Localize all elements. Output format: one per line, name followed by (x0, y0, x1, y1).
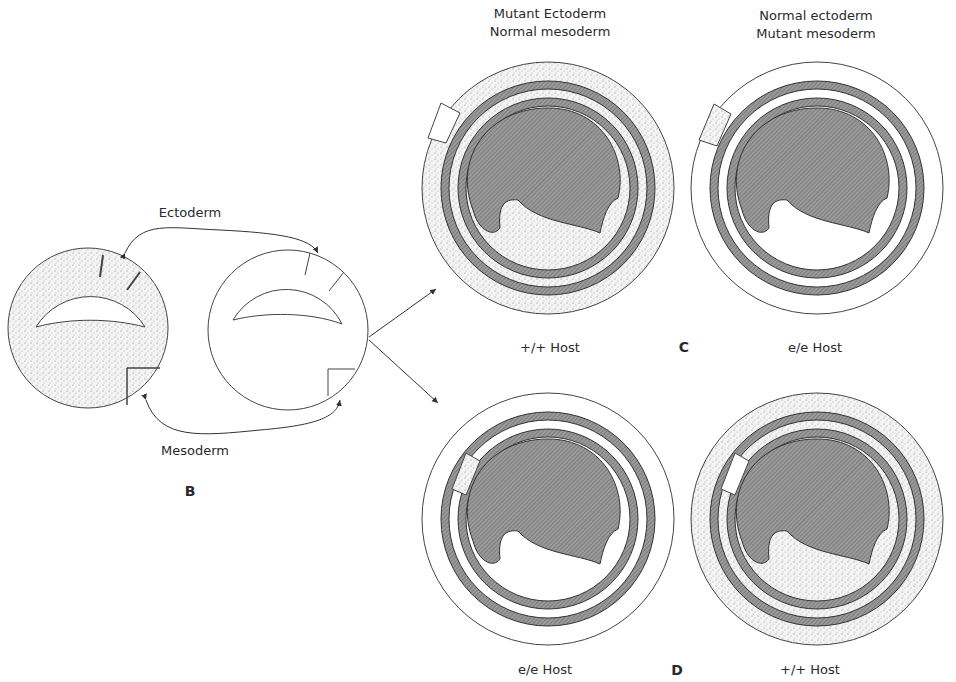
mesoderm-label: Mesoderm (150, 443, 240, 458)
column-header-left-line2: Normal mesoderm (480, 24, 620, 39)
host-label-d-right: +/+ Host (760, 662, 860, 677)
donor-embryo-mutant (8, 248, 168, 408)
panel-b-letter: B (180, 483, 200, 499)
panel-c-letter: C (674, 339, 694, 355)
host-label-c-right: e/e Host (765, 340, 865, 355)
column-header-left-line1: Mutant Ectoderm (480, 6, 620, 21)
column-header-right-line1: Normal ectoderm (746, 8, 886, 23)
embryo-d-wildtype-host (691, 393, 943, 645)
host-label-d-left: e/e Host (495, 662, 595, 677)
donor-embryo-normal (208, 250, 368, 410)
panel-d-letter: D (667, 662, 687, 678)
host-label-c-left: +/+ Host (500, 340, 600, 355)
embryo-c-mutant-host (691, 62, 943, 314)
embryo-c-wildtype-host (422, 62, 674, 314)
embryo-d-mutant-host (422, 393, 674, 645)
ectoderm-label: Ectoderm (150, 205, 230, 220)
column-header-right-line2: Mutant mesoderm (746, 26, 886, 41)
